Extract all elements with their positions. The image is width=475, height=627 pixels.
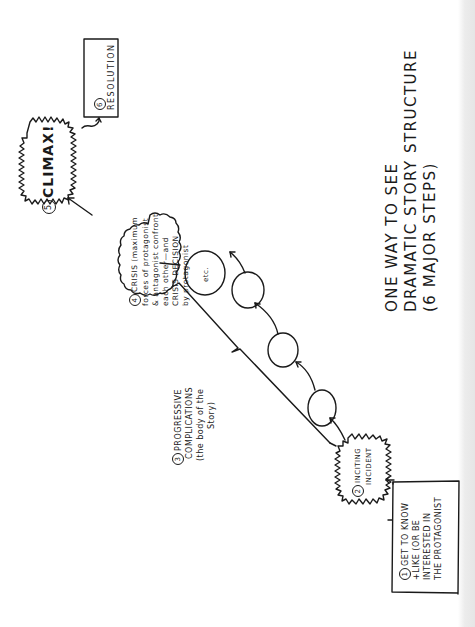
step3-label: 3PROGRESSIVE COMPLICATIONS (the body of … [172,387,217,465]
step1-label: 1GET TO KNOW +LIKE (OR BE INTERESTED IN … [399,497,444,580]
complication-circle-3 [232,272,264,308]
step6-number-badge: 6 [94,98,106,110]
resolution-text: RESOLUTION [106,44,117,110]
title-line-2: DRAMATIC STORY STRUCTURE [402,49,421,312]
complication-circle-1 [308,390,336,426]
step3-number-badge: 3 [172,453,184,465]
diagram-title: ONE WAY TO SEE DRAMATIC STORY STRUCTURE … [383,49,440,312]
title-line-1: ONE WAY TO SEE [383,49,402,312]
step6-label: 6 RESOLUTION [94,44,117,110]
title-line-3: (6 MAJOR STEPS) [421,49,440,312]
step5-number-badge: 5 [42,200,56,214]
step4-number-badge: 4 [129,294,141,306]
etc-label: etc. [201,267,211,282]
step2-number-badge: 2 [352,485,364,497]
step4-label: 4CRISIS (maximum forces of protagonist &… [129,214,191,306]
step1-number-badge: 1 [399,568,411,580]
step5-label: 5CLIMAX! [40,125,56,214]
complication-circle-2 [268,333,298,367]
step2-label: 2INCITING INCIDENT [352,447,374,497]
arrow-step4-to-step5 [68,198,92,215]
climax-text: CLIMAX! [40,125,56,198]
